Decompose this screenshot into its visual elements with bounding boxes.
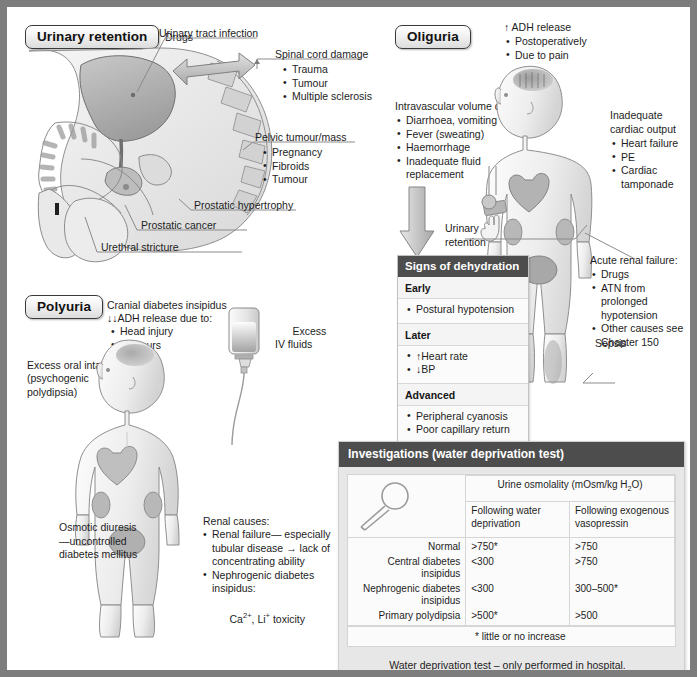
label-osmotic-diuresis: Osmotic diuresis —uncontrolled diabetes …	[59, 521, 137, 562]
label-spinal-cord-damage: Spinal cord damage	[275, 48, 368, 62]
label-sepsis: Sepsis	[595, 337, 627, 351]
cell-deprivation: >500*	[466, 609, 570, 626]
list-item: Heart failure	[612, 137, 690, 151]
list-item: Due to pain	[506, 49, 626, 63]
label-renal-causes-title: Renal causes:	[203, 515, 270, 529]
label-inadequate-cardiac-output: Inadequate cardiac output	[610, 109, 676, 136]
investigations-note: Water deprivation test – only performed …	[339, 647, 684, 670]
cell-deprivation: <300	[466, 555, 570, 582]
magnifier-icon	[353, 479, 423, 531]
label-adh-release-increase: ↑ ADH release	[504, 21, 571, 35]
table-header-row: Urine osmolality (mOsm/kg H2O)	[348, 476, 675, 502]
section-title-oliguria: Oliguria	[395, 25, 471, 49]
table-row: Central diabetes insipidus <300 >750	[348, 555, 675, 582]
cell-vasopressin: >750	[570, 555, 675, 582]
list-item: Renal failure— especially tubular diseas…	[203, 528, 338, 569]
urine-osmolality-header: Urine osmolality (mOsm/kg H2O)	[466, 476, 675, 502]
label-acute-renal-failure: Acute renal failure:	[590, 254, 678, 268]
dehydration-header: Signs of dehydration	[398, 256, 528, 277]
label-adh-release-decrease: ↓↓ADH release due to:	[107, 312, 212, 326]
cell-vasopressin: >500	[570, 609, 675, 626]
list-item: Postural hypotension	[407, 303, 521, 317]
row-label: Normal	[348, 538, 466, 555]
dehydration-group-items-early: Postural hypotension	[398, 299, 528, 324]
row-label: Central diabetes insipidus	[348, 555, 466, 582]
list-item: Nephrogenic diabetes insipidus:	[203, 569, 338, 596]
label-excess-iv-fluids: Excess IV fluids	[275, 311, 326, 365]
list-item: Postoperatively	[506, 35, 626, 49]
label-prostatic-cancer: Prostatic cancer	[141, 219, 216, 233]
row-label: Nephrogenic diabetes insipidus	[348, 582, 466, 609]
diagram-page: Urinary retention	[0, 0, 697, 677]
diagram-canvas: Urinary retention	[7, 7, 690, 670]
investigations-table-wrapper: Urine osmolality (mOsm/kg H2O) Following…	[347, 474, 676, 627]
list-item: Multiple sclerosis	[283, 90, 393, 104]
label-urethral-stricture: Urethral stricture	[101, 241, 179, 255]
column-header-vasopressin: Following exogenous vasopressin	[570, 502, 675, 538]
list-pelvic-tumour: Pregnancy Fibroids Tumour	[263, 146, 373, 187]
cell-vasopressin: 300–500*	[570, 582, 675, 609]
magnifier-cell	[348, 476, 466, 538]
section-title-polyuria: Polyuria	[25, 295, 103, 319]
cell-deprivation: <300	[466, 582, 570, 609]
dehydration-group-items-later: ↑Heart rate ↓BP	[398, 346, 528, 384]
list-item: PE	[612, 151, 690, 165]
list-item: Tumour	[283, 77, 393, 91]
list-item: Tumour	[263, 173, 373, 187]
table-row: Nephrogenic diabetes insipidus <300 300–…	[348, 582, 675, 609]
label-prostatic-hypertrophy: Prostatic hypertrophy	[194, 199, 293, 213]
list-adh-release: Postoperatively Due to pain	[506, 35, 626, 62]
dehydration-group-items-advanced: Peripheral cyanosis Poor capillary retur…	[398, 406, 528, 443]
list-item: Trauma	[283, 63, 393, 77]
dehydration-group-title-advanced: Advanced	[398, 384, 528, 406]
label-urinary-tract-infection: Urinary tract infection	[159, 27, 258, 41]
excess-iv-line: Excess IV fluids	[275, 325, 326, 351]
label-pelvic-tumour-mass: Pelvic tumour/mass	[255, 131, 347, 145]
osmolality-label: Urine osmolality (mOsm/kg H2O)	[498, 479, 643, 490]
list-item: Pregnancy	[263, 146, 373, 160]
investigations-footnote: * little or no increase	[353, 631, 670, 642]
list-item: ↑Heart rate	[407, 350, 521, 364]
column-header-deprivation: Following water deprivation	[466, 502, 570, 538]
signs-of-dehydration-panel: Signs of dehydration Early Postural hypo…	[397, 255, 529, 444]
row-label: Primary polydipsia	[348, 609, 466, 626]
list-item: Peripheral cyanosis	[407, 410, 521, 424]
dehydration-group-title-later: Later	[398, 324, 528, 346]
label-ca-li-toxicity: Ca2+, Li+ toxicity	[212, 595, 305, 639]
investigations-panel: Investigations (water deprivation test)	[338, 441, 685, 670]
list-item: ATN from prolonged hypotension	[592, 282, 690, 323]
table-row: Primary polydipsia >500* >500	[348, 609, 675, 626]
list-item: Fibroids	[263, 160, 373, 174]
list-spinal-cord-damage: Trauma Tumour Multiple sclerosis	[283, 63, 393, 104]
investigations-note-line1: Water deprivation test – only performed …	[339, 658, 676, 670]
list-item: Poor capillary return	[407, 423, 521, 437]
water-deprivation-table: Urine osmolality (mOsm/kg H2O) Following…	[348, 475, 675, 626]
investigations-footnote-wrapper: * little or no increase	[347, 627, 676, 647]
table-row: Normal >750* >750	[348, 538, 675, 555]
list-cardiac-output-causes: Heart failure PE Cardiac tamponade	[612, 137, 690, 191]
list-item: ↓BP	[407, 363, 521, 377]
list-renal-causes: Renal failure— especially tubular diseas…	[203, 528, 338, 596]
cell-deprivation: >750*	[466, 538, 570, 555]
label-cranial-diabetes-insipidus: Cranial diabetes insipidus	[107, 299, 227, 313]
list-item: Drugs	[592, 268, 690, 282]
investigations-header: Investigations (water deprivation test)	[339, 442, 684, 467]
dehydration-group-title-early: Early	[398, 277, 528, 299]
cell-vasopressin: >750	[570, 538, 675, 555]
